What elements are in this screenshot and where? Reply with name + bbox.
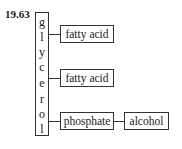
glycerol-letter: c bbox=[36, 61, 48, 73]
glycerol-backbone: g l y c e r o l bbox=[35, 12, 49, 136]
glycerol-letter: o bbox=[36, 108, 48, 120]
bond-line bbox=[49, 34, 60, 35]
phosphate-box: phosphate bbox=[60, 112, 114, 130]
problem-number: 19.63 bbox=[5, 8, 30, 20]
glycerol-letter: y bbox=[36, 46, 48, 58]
bond-line bbox=[49, 121, 60, 122]
bond-line bbox=[49, 78, 60, 79]
glycerol-letter: r bbox=[36, 93, 48, 105]
glycerol-letter: l bbox=[36, 123, 48, 135]
fatty-acid-box-2: fatty acid bbox=[60, 69, 114, 87]
alcohol-box: alcohol bbox=[124, 112, 169, 130]
glycerol-letter: e bbox=[36, 77, 48, 89]
fatty-acid-box-1: fatty acid bbox=[60, 25, 114, 43]
bond-line bbox=[114, 121, 124, 122]
glycerol-letter: g bbox=[36, 16, 48, 28]
glycerol-letter: l bbox=[36, 31, 48, 43]
